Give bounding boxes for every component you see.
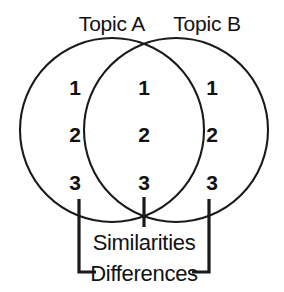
left-item-2: 2 [69,123,81,146]
venn-diagram-svg: Topic A Topic B 1 2 3 1 2 3 1 2 3 Simila… [0,0,284,292]
center-item-3: 3 [138,171,150,194]
right-item-3: 3 [206,171,218,194]
circle-topic-b [84,38,268,222]
center-item-2: 2 [138,123,150,146]
venn-diagram-canvas: Topic A Topic B 1 2 3 1 2 3 1 2 3 Simila… [0,0,284,292]
left-item-1: 1 [69,76,81,99]
circle-topic-a [20,38,204,222]
topic-a-label: Topic A [79,12,145,35]
topic-b-label: Topic B [173,12,240,35]
right-item-1: 1 [206,76,218,99]
center-item-1: 1 [138,76,150,99]
differences-label: Differences [90,261,198,286]
left-item-3: 3 [69,171,81,194]
similarities-label: Similarities [93,230,196,255]
right-item-2: 2 [206,123,218,146]
